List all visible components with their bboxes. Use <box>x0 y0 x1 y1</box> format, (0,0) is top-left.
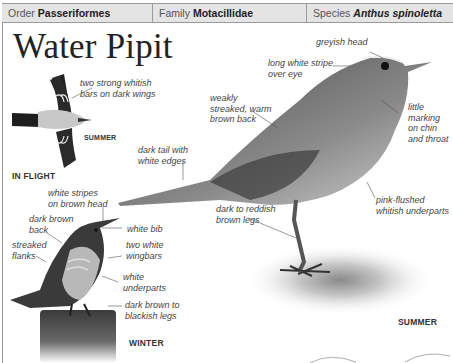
winter-caption: WINTER <box>129 338 164 348</box>
label-white-stripe: long white stripe over eye <box>268 58 333 79</box>
label-chin-throat: little marking on chin and throat <box>408 102 449 144</box>
label-back: weakly streaked, warm brown back <box>210 93 272 125</box>
decorative-arc-right <box>405 354 450 362</box>
flight-summer-caption: SUMMER <box>84 134 116 141</box>
label-greyish-head: greyish head <box>316 37 368 48</box>
label-underparts-summer: pink-flushed whitish underparts <box>376 195 449 216</box>
decorative-arc-left <box>310 357 356 363</box>
label-flight-wingbars: two strong whitish bars on dark wings <box>80 78 156 99</box>
label-winter-underparts: white underparts <box>123 272 166 293</box>
label-winter-wingbars: two white wingbars <box>126 240 164 261</box>
label-winter-legs: dark brown to blackish legs <box>125 300 180 321</box>
label-winter-back: dark brown back <box>29 214 74 235</box>
bird-illustrations <box>0 0 453 363</box>
label-winter-bib: white bib <box>127 224 163 235</box>
label-winter-head: white stripes on brown head <box>48 188 108 209</box>
in-flight-caption: IN FLIGHT <box>12 171 55 181</box>
label-winter-flanks: streaked flanks <box>12 240 47 261</box>
label-legs-summer: dark to reddish brown legs <box>216 204 276 225</box>
label-tail: dark tail with white edges <box>138 145 188 166</box>
summer-caption: SUMMER <box>398 317 437 327</box>
